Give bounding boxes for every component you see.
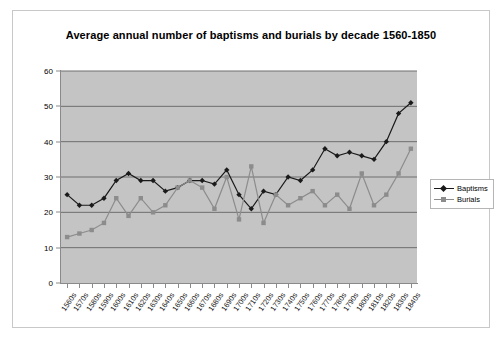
y-tick-label: 40	[44, 137, 53, 146]
data-point	[89, 228, 93, 232]
data-point	[212, 207, 216, 211]
data-point	[396, 171, 400, 175]
data-point	[372, 203, 376, 207]
y-tick-mark	[56, 106, 61, 107]
data-point	[139, 196, 143, 200]
y-tick-mark	[56, 141, 61, 142]
data-point	[274, 192, 278, 196]
legend-label-burials: Burials	[454, 195, 480, 204]
x-tick-mark	[313, 284, 314, 288]
x-tick-mark	[178, 284, 179, 288]
x-tick-mark	[141, 284, 142, 288]
legend-marker-burials-icon	[434, 195, 454, 204]
data-point	[384, 192, 388, 196]
data-point	[77, 231, 81, 235]
data-point	[163, 203, 167, 207]
data-point	[261, 221, 265, 225]
data-point	[359, 153, 364, 158]
y-axis: 0102030405060	[25, 71, 57, 283]
data-point	[322, 146, 327, 151]
data-point	[102, 221, 106, 225]
y-tick-label: 0	[49, 279, 53, 288]
x-tick-mark	[79, 284, 80, 288]
y-tick-label: 60	[44, 67, 53, 76]
chart-title: Average annual number of baptisms and bu…	[13, 29, 489, 41]
x-tick-mark	[349, 284, 350, 288]
x-tick-mark	[337, 284, 338, 288]
y-tick-mark	[56, 177, 61, 178]
y-tick-label: 50	[44, 102, 53, 111]
data-point	[126, 171, 131, 176]
data-point	[249, 164, 253, 168]
legend-marker-baptisms-icon	[434, 184, 454, 193]
x-tick-mark	[325, 284, 326, 288]
x-tick-mark	[386, 284, 387, 288]
x-tick-mark	[239, 284, 240, 288]
data-point	[114, 196, 118, 200]
data-point	[126, 214, 130, 218]
data-point	[409, 147, 413, 151]
y-tick-mark	[56, 71, 61, 72]
data-point	[65, 235, 69, 239]
x-tick-mark	[411, 284, 412, 288]
x-tick-mark	[288, 284, 289, 288]
y-tick-mark	[56, 283, 61, 284]
legend-item-burials: Burials	[434, 194, 488, 205]
legend-label-baptisms: Baptisms	[454, 184, 488, 193]
x-tick-mark	[276, 284, 277, 288]
data-point	[225, 175, 229, 179]
x-tick-mark	[399, 284, 400, 288]
x-tick-mark	[92, 284, 93, 288]
data-point	[323, 203, 327, 207]
data-point	[310, 189, 314, 193]
legend: Baptisms Burials	[430, 179, 494, 209]
data-point	[335, 192, 339, 196]
data-point	[298, 196, 302, 200]
plot-area	[61, 71, 417, 283]
x-tick-mark	[190, 284, 191, 288]
data-point	[347, 207, 351, 211]
x-tick-mark	[165, 284, 166, 288]
x-tick-mark	[227, 284, 228, 288]
y-tick-mark	[56, 247, 61, 248]
chart-container: Average annual number of baptisms and bu…	[12, 10, 490, 328]
x-tick-mark	[129, 284, 130, 288]
x-tick-mark	[300, 284, 301, 288]
data-point	[286, 203, 290, 207]
x-tick-mark	[116, 284, 117, 288]
data-point	[200, 185, 204, 189]
legend-item-baptisms: Baptisms	[434, 183, 488, 194]
x-tick-mark	[153, 284, 154, 288]
y-tick-mark	[56, 212, 61, 213]
x-tick-mark	[264, 284, 265, 288]
x-tick-mark	[67, 284, 68, 288]
series-layer	[61, 71, 417, 283]
data-point	[138, 178, 143, 183]
x-tick-mark	[214, 284, 215, 288]
y-tick-label: 10	[44, 243, 53, 252]
data-point	[360, 171, 364, 175]
data-point	[237, 217, 241, 221]
data-point	[188, 178, 192, 182]
x-tick-mark	[104, 284, 105, 288]
data-point	[175, 185, 179, 189]
data-point	[347, 150, 352, 155]
x-tick-mark	[374, 284, 375, 288]
x-tick-mark	[251, 284, 252, 288]
data-point	[199, 178, 204, 183]
data-point	[151, 210, 155, 214]
data-point	[335, 153, 340, 158]
y-tick-label: 20	[44, 208, 53, 217]
x-tick-mark	[202, 284, 203, 288]
data-point	[89, 203, 94, 208]
x-tick-mark	[362, 284, 363, 288]
y-tick-label: 30	[44, 173, 53, 182]
